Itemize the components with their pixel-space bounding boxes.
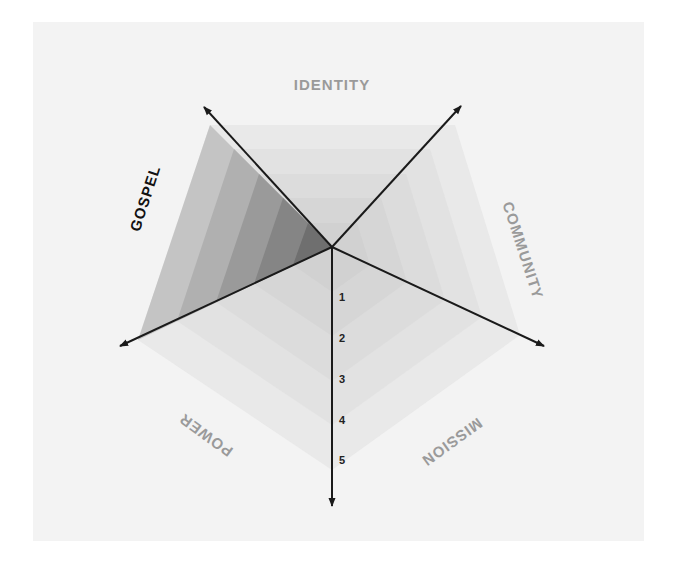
tick-5: 5: [339, 454, 345, 466]
label-identity: IDENTITY: [294, 76, 370, 93]
tick-3: 3: [339, 373, 345, 385]
pentagon-radar-diagram: 1 2 3 4 5 IDENTITY COMMUNITY MISSION POW…: [0, 0, 677, 564]
label-community: COMMUNITY: [499, 199, 547, 301]
tick-1: 1: [339, 291, 345, 303]
label-power: POWER: [176, 410, 236, 460]
label-mission: MISSION: [419, 415, 486, 470]
tick-4: 4: [339, 414, 346, 426]
label-gospel: GOSPEL: [126, 163, 163, 233]
tick-2: 2: [339, 332, 345, 344]
